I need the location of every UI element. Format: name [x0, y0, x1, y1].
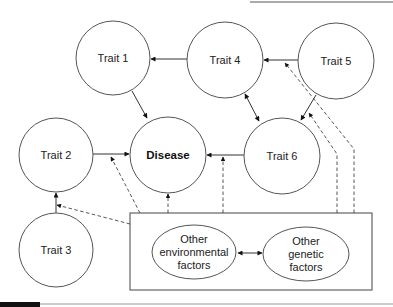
trait2-label: Trait 2 — [41, 149, 72, 161]
gen-line2: genetic — [288, 248, 324, 260]
edge-trait4-trait6 — [245, 94, 259, 121]
causal-diagram: Trait 1 Trait 4 Trait 5 Trait 2 Disease … — [0, 0, 393, 307]
bottom-rule-block — [0, 302, 40, 307]
trait3-label: Trait 3 — [41, 244, 72, 256]
node-trait1: Trait 1 — [76, 21, 150, 95]
env-line2: environmental — [159, 246, 228, 258]
node-disease: Disease — [130, 117, 206, 193]
trait1-label: Trait 1 — [98, 52, 129, 64]
node-other-genetic-factors: Other genetic factors — [263, 227, 349, 281]
node-trait3: Trait 3 — [19, 213, 93, 287]
trait4-label: Trait 4 — [210, 54, 241, 66]
gen-line3: factors — [289, 261, 323, 273]
edge-trait1-disease — [132, 91, 147, 118]
env-line3: factors — [177, 259, 211, 271]
trait6-label: Trait 6 — [267, 150, 298, 162]
node-other-environmental-factors: Other environmental factors — [152, 225, 236, 279]
node-trait6: Trait 6 — [244, 118, 320, 194]
node-trait5: Trait 5 — [298, 23, 374, 99]
disease-label: Disease — [146, 149, 189, 161]
node-trait2: Trait 2 — [19, 118, 93, 192]
trait5-label: Trait 5 — [321, 55, 352, 67]
node-trait4: Trait 4 — [187, 22, 263, 98]
env-line1: Other — [180, 233, 208, 245]
gen-line1: Other — [292, 235, 320, 247]
